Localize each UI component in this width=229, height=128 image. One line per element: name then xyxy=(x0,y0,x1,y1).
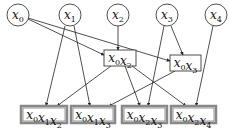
intermediate-nodes-layer: x0x2x0x3 xyxy=(104,50,201,75)
edge-x0x2-to-x0x2x4 xyxy=(132,66,186,106)
variable-node-x0: x0 xyxy=(7,4,29,26)
edge-x0-to-x0x3 xyxy=(28,18,170,61)
edge-x1-to-x0x1x3 xyxy=(74,26,90,106)
variable-node-x4: x4 xyxy=(205,4,227,26)
output-node-x0x2x4: x0x2x4 xyxy=(171,106,216,128)
edge-x3-to-x0x2x3 xyxy=(148,26,164,106)
variable-node-x1: x1 xyxy=(59,4,81,26)
dag-diagram: x0x1x2x3x4 x0x2x0x3 x0x1x2x0x1x3x0x2x3x0… xyxy=(0,0,229,128)
edge-x0x2-to-x0x2x3 xyxy=(125,66,140,106)
output-node-x0x1x3: x0x1x3 xyxy=(71,106,115,128)
intermediate-node-x0x2: x0x2 xyxy=(104,50,136,70)
variable-node-x2: x2 xyxy=(107,4,129,26)
edge-x0x2-to-x0x1x2 xyxy=(57,66,111,106)
edge-x1-to-x0x1x2 xyxy=(46,26,65,106)
variable-node-x3: x3 xyxy=(156,4,178,26)
variable-nodes-layer: x0x1x2x3x4 xyxy=(7,4,227,26)
intermediate-node-x0x3: x0x3 xyxy=(170,55,201,75)
output-node-x0x1x2: x0x1x2 xyxy=(21,106,67,128)
output-node-x0x2x3: x0x2x3 xyxy=(122,106,167,128)
edge-x3-to-x0x3 xyxy=(171,26,183,55)
output-nodes-layer: x0x1x2x0x1x3x0x2x3x0x2x4 xyxy=(21,106,216,128)
edge-x0x3-to-x0x1x3 xyxy=(109,71,175,106)
